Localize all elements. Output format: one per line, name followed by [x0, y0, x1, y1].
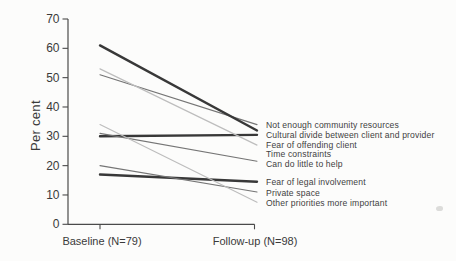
y-axis-title: Per cent	[28, 103, 42, 151]
scan-artifact	[436, 206, 443, 211]
series-label: Fear of legal involvement	[266, 177, 366, 187]
series-label: Time constraints	[266, 149, 331, 159]
slopegraph-figure: 010203040506070Not enough community reso…	[0, 0, 456, 261]
series-line	[100, 69, 257, 145]
series-label: Not enough community resources	[266, 120, 399, 130]
series-label: Cultural divide between client and provi…	[266, 130, 434, 140]
y-tick-label: 30	[46, 129, 60, 143]
y-tick-label: 70	[46, 12, 60, 26]
series-line	[100, 174, 257, 181]
y-tick-label: 10	[46, 188, 60, 202]
y-tick-label: 20	[46, 159, 60, 173]
series-label: Other priorities more important	[266, 198, 388, 208]
x-axis-label-followup: Follow-up (N=98)	[213, 235, 298, 247]
y-tick-label: 40	[46, 100, 60, 114]
series-line	[100, 166, 257, 192]
series-label: Private space	[266, 188, 320, 198]
y-tick-label: 60	[46, 41, 60, 55]
chart-canvas: 010203040506070Not enough community reso…	[0, 0, 456, 261]
y-tick-label: 0	[53, 217, 60, 231]
series-line	[100, 133, 257, 161]
series-label: Can do little to help	[266, 159, 343, 169]
series-label: Fear of offending client	[266, 140, 357, 150]
y-tick-label: 50	[46, 71, 60, 85]
series-line	[100, 45, 257, 130]
x-axis-label-baseline: Baseline (N=79)	[62, 235, 141, 247]
